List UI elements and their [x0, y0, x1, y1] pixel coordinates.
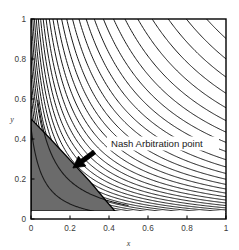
y-tick-label: 0.6 — [15, 95, 27, 104]
x-tick-label: 1 — [224, 224, 229, 233]
y-tick-label: 0.8 — [15, 55, 27, 64]
chart-canvas: 00.20.40.60.8100.20.40.60.81xyNash Arbit… — [0, 0, 239, 250]
x-tick-label: 0.2 — [64, 224, 76, 233]
x-tick-label: 0.6 — [142, 224, 154, 233]
y-tick-label: 0.2 — [15, 175, 27, 184]
y-tick-label: 1 — [21, 15, 26, 24]
nash-arbitration-figure: 00.20.40.60.8100.20.40.60.81xyNash Arbit… — [0, 0, 239, 250]
x-tick-label: 0.8 — [181, 224, 193, 233]
x-tick-label: 0.4 — [103, 224, 115, 233]
annotation-label: Nash Arbitration point — [111, 138, 203, 149]
x-tick-label: 0 — [29, 224, 34, 233]
y-tick-label: 0.4 — [15, 135, 27, 144]
baseline-band — [32, 211, 225, 219]
y-axis-label: y — [9, 115, 14, 124]
x-axis-label: x — [126, 239, 131, 248]
y-tick-label: 0 — [21, 215, 26, 224]
